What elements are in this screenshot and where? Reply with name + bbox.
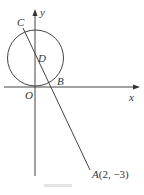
line-ca — [23, 28, 90, 170]
label-c: C — [17, 16, 25, 28]
label-d: D — [37, 52, 46, 64]
label-x: x — [128, 91, 134, 103]
x-axis-arrow-icon — [133, 85, 140, 90]
label-o: O — [25, 89, 33, 101]
y-axis-arrow-icon — [33, 9, 38, 16]
label-a: A(2, −3) — [91, 168, 129, 181]
geometry-figure: y x O C D B A(2, −3) — [0, 0, 144, 195]
label-a-coords: (2, −3) — [99, 168, 129, 181]
label-y: y — [39, 6, 45, 18]
figure-caption — [44, 184, 72, 187]
label-b: B — [57, 75, 64, 87]
